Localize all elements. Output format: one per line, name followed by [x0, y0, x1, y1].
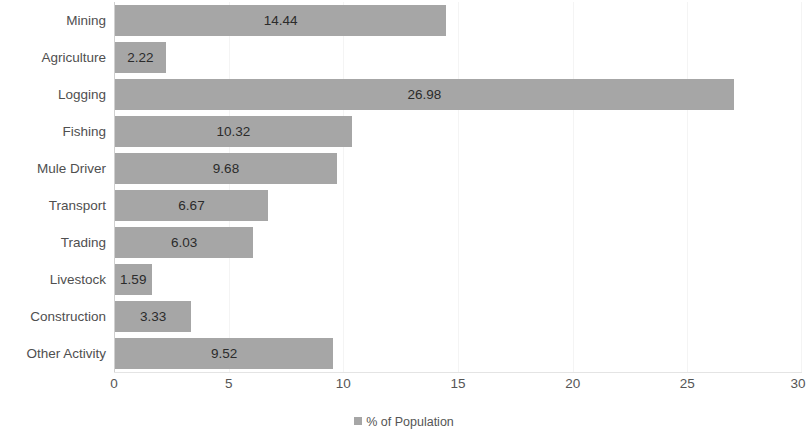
- legend-item-pct-of-population[interactable]: % of Population: [354, 414, 454, 429]
- chart-legend: % of Population: [0, 414, 808, 429]
- bar[interactable]: 10.32: [115, 116, 352, 147]
- bar[interactable]: 14.44: [115, 5, 446, 36]
- bar-wrapper: 2.22: [115, 42, 166, 73]
- bar-row-other-activity: Other Activity 9.52: [0, 335, 808, 372]
- bar-rows: Mining 14.44 Agriculture 2.22 Logging 26…: [0, 2, 808, 372]
- bar[interactable]: 6.67: [115, 190, 268, 221]
- bar[interactable]: 9.68: [115, 153, 337, 184]
- bar-value-label: 10.32: [115, 116, 352, 147]
- bar[interactable]: 2.22: [115, 42, 166, 73]
- bar-row-livestock: Livestock 1.59: [0, 261, 808, 298]
- x-tick-label: 30: [768, 376, 808, 391]
- category-label: Construction: [0, 298, 106, 335]
- x-tick-label: 20: [543, 376, 603, 391]
- category-label: Livestock: [0, 261, 106, 298]
- bar-wrapper: 6.67: [115, 190, 268, 221]
- bar[interactable]: 1.59: [115, 264, 152, 295]
- bar-row-trading: Trading 6.03: [0, 224, 808, 261]
- bar[interactable]: 6.03: [115, 227, 253, 258]
- category-label: Agriculture: [0, 39, 106, 76]
- bar-row-fishing: Fishing 10.32: [0, 113, 808, 150]
- bar[interactable]: 26.98: [115, 79, 734, 110]
- bar-value-label: 14.44: [115, 5, 446, 36]
- category-label: Fishing: [0, 113, 106, 150]
- bar-row-transport: Transport 6.67: [0, 187, 808, 224]
- bar-row-agriculture: Agriculture 2.22: [0, 39, 808, 76]
- x-tick-label: 0: [84, 376, 144, 391]
- bar-wrapper: 9.52: [115, 338, 333, 369]
- bar-value-label: 6.03: [115, 227, 253, 258]
- x-tick-label: 15: [428, 376, 488, 391]
- bar-row-mining: Mining 14.44: [0, 2, 808, 39]
- category-label: Mule Driver: [0, 150, 106, 187]
- bar-row-mule-driver: Mule Driver 9.68: [0, 150, 808, 187]
- bar-wrapper: 14.44: [115, 5, 446, 36]
- bar-wrapper: 9.68: [115, 153, 337, 184]
- legend-swatch-icon: [354, 417, 362, 425]
- bar[interactable]: 9.52: [115, 338, 333, 369]
- bar-value-label: 9.68: [115, 153, 337, 184]
- bar-chart: Mining 14.44 Agriculture 2.22 Logging 26…: [0, 0, 808, 438]
- category-label: Mining: [0, 2, 106, 39]
- x-tick-label: 10: [313, 376, 373, 391]
- category-label: Transport: [0, 187, 106, 224]
- x-axis-baseline: [114, 372, 802, 373]
- bar-value-label: 2.22: [115, 42, 166, 73]
- bar-row-logging: Logging 26.98: [0, 76, 808, 113]
- legend-label: % of Population: [366, 415, 454, 429]
- bar-value-label: 3.33: [115, 301, 191, 332]
- bar-value-label: 9.52: [115, 338, 333, 369]
- x-axis-tick-labels: 0 5 10 15 20 25 30: [0, 376, 808, 398]
- category-label: Other Activity: [0, 335, 106, 372]
- bar[interactable]: 3.33: [115, 301, 191, 332]
- bar-row-construction: Construction 3.33: [0, 298, 808, 335]
- bar-wrapper: 6.03: [115, 227, 253, 258]
- bar-value-label: 26.98: [115, 79, 734, 110]
- bar-wrapper: 3.33: [115, 301, 191, 332]
- category-label: Trading: [0, 224, 106, 261]
- category-label: Logging: [0, 76, 106, 113]
- bar-wrapper: 10.32: [115, 116, 352, 147]
- bar-wrapper: 26.98: [115, 79, 734, 110]
- x-tick-label: 25: [657, 376, 717, 391]
- bar-value-label: 6.67: [115, 190, 268, 221]
- bar-value-label: 1.59: [115, 264, 152, 295]
- x-tick-label: 5: [199, 376, 259, 391]
- bar-wrapper: 1.59: [115, 264, 152, 295]
